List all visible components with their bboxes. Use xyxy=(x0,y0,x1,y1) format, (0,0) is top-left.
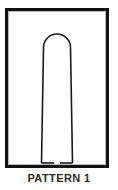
pattern-frame xyxy=(5,8,109,168)
pattern-outline-path xyxy=(42,34,73,163)
pattern-figure: PATTERN 1 xyxy=(0,0,118,190)
pattern-shape-icon xyxy=(8,11,112,171)
pattern-caption: PATTERN 1 xyxy=(0,172,118,184)
